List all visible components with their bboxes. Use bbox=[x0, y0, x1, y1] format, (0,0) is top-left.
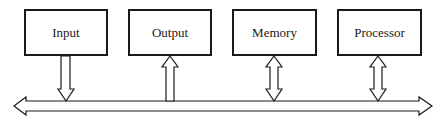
bus-to-output-arrow bbox=[162, 56, 178, 101]
input-to-bus-arrow bbox=[58, 56, 74, 101]
output-box: Output bbox=[128, 9, 212, 56]
input-label: Input bbox=[52, 25, 79, 41]
memory-bus-arrow bbox=[266, 56, 282, 101]
input-box: Input bbox=[24, 9, 108, 56]
processor-label: Processor bbox=[354, 25, 405, 41]
processor-bus-arrow bbox=[370, 56, 386, 101]
processor-box: Processor bbox=[337, 9, 422, 56]
output-label: Output bbox=[152, 25, 188, 41]
memory-label: Memory bbox=[252, 25, 297, 41]
system-bus-arrow bbox=[14, 97, 432, 115]
memory-box: Memory bbox=[232, 9, 317, 56]
bus-diagram: Input Output Memory Processor bbox=[0, 0, 445, 121]
